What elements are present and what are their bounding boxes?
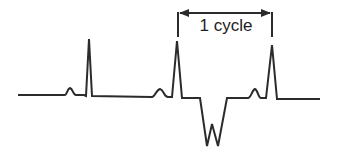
ecg-trace <box>18 39 320 146</box>
arrow-right-icon <box>261 9 271 17</box>
ecg-diagram <box>0 0 338 166</box>
arrow-left-icon <box>179 9 189 17</box>
cycle-label: 1 cycle <box>192 16 260 36</box>
